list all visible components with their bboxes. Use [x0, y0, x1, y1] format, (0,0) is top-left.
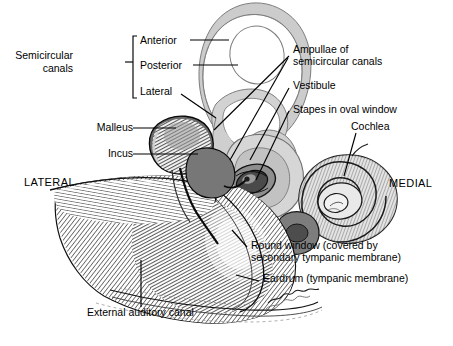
- label-cochlea: Cochlea: [351, 120, 390, 133]
- label-stapes-oval-window: Stapes in oval window: [293, 103, 397, 116]
- label-incus: Incus: [73, 147, 133, 160]
- label-ampullae-line2: semicircular canals: [293, 55, 382, 68]
- label-medial-direction: MEDIAL: [389, 177, 432, 190]
- label-semicircular-canals-line2: canals: [13, 62, 73, 75]
- label-lateral-canal: Lateral: [140, 85, 172, 98]
- label-lateral-direction: LATERAL: [24, 176, 75, 189]
- label-eardrum: Eardrum (tympanic membrane): [263, 272, 408, 285]
- ear-anatomy-figure: Semicircular canals Anterior Posterior L…: [0, 0, 453, 346]
- label-round-window-line1: Round window (covered by: [251, 239, 378, 252]
- label-external-auditory-canal: External auditory canal: [87, 306, 194, 319]
- label-anterior-canal: Anterior: [140, 34, 177, 47]
- label-malleus: Malleus: [73, 121, 133, 134]
- label-posterior-canal: Posterior: [140, 59, 182, 72]
- label-semicircular-canals-line1: Semicircular: [13, 49, 73, 62]
- label-vestibule: Vestibule: [293, 79, 336, 92]
- label-ampullae-line1: Ampullae of: [293, 43, 348, 56]
- label-round-window-line2: secondary tympanic membrane): [251, 251, 401, 264]
